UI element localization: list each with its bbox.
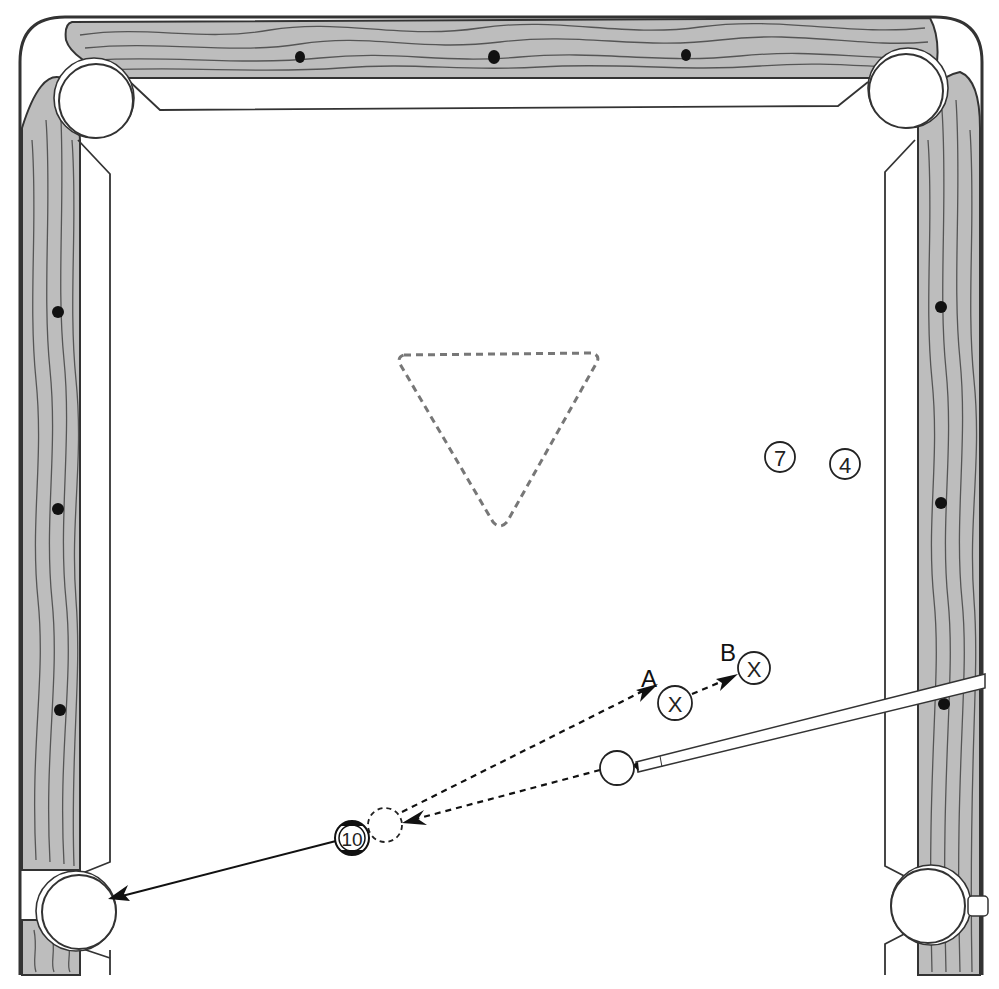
- diamond-icon: [52, 306, 64, 318]
- cushions: [78, 80, 915, 975]
- ghost-ball: [368, 808, 402, 842]
- arrowhead-icon: [716, 674, 738, 691]
- top-rail: [66, 18, 938, 78]
- diamond-icon: [295, 51, 305, 63]
- svg-text:7: 7: [774, 446, 786, 471]
- svg-text:X: X: [747, 657, 762, 682]
- diamond-icon: [938, 698, 950, 710]
- left-rail: [22, 77, 80, 975]
- diamond-icon: [52, 503, 64, 515]
- path-10-to-pocket: [122, 841, 336, 896]
- pool-table-diagram: 7 4 10 X A X B: [0, 0, 999, 989]
- arrowhead-icon: [402, 810, 427, 825]
- diamond-icon: [681, 49, 691, 61]
- svg-text:10: 10: [341, 829, 362, 850]
- path-ghost-to-A: [402, 690, 645, 812]
- ball-7: 7: [765, 442, 795, 472]
- position-label-B: B: [720, 639, 736, 666]
- diamond-icon: [935, 497, 947, 509]
- pocket-top-right: [868, 48, 948, 128]
- path-cue-to-ghost: [412, 770, 600, 820]
- diamond-icon: [488, 50, 500, 64]
- right-rail: [918, 72, 980, 975]
- pocket-top-left: [54, 58, 134, 138]
- rack-triangle: [399, 353, 598, 526]
- ball-10: 10: [333, 821, 371, 855]
- cue-ball: [600, 751, 634, 785]
- ball-4: 4: [830, 449, 860, 479]
- table-frame: [20, 17, 982, 975]
- svg-text:X: X: [668, 692, 683, 717]
- shot-paths: [108, 674, 738, 901]
- rail-diamonds: [52, 49, 950, 716]
- diamond-icon: [54, 704, 66, 716]
- position-label-A: A: [641, 665, 657, 692]
- svg-text:4: 4: [839, 453, 851, 478]
- diamond-icon: [935, 301, 947, 313]
